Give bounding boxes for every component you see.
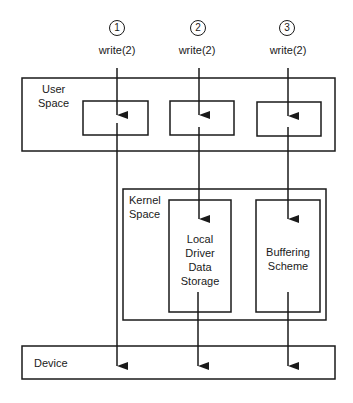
kernel-space-label-line2: Space	[129, 207, 161, 221]
local-driver-line4: Storage	[169, 274, 231, 288]
device-label: Device	[34, 356, 68, 370]
buffering-scheme-label: Buffering Scheme	[256, 245, 320, 273]
step-number-2: 2	[190, 20, 206, 36]
local-driver-line2: Driver	[169, 246, 231, 260]
diagram-canvas	[0, 0, 353, 403]
buffering-line2: Scheme	[256, 259, 320, 273]
user-buffer-box-2	[170, 101, 234, 135]
write-call-2: write(2)	[172, 43, 222, 57]
kernel-space-label-line1: Kernel	[129, 193, 161, 207]
step-number-3: 3	[279, 20, 295, 36]
local-driver-line3: Data	[169, 260, 231, 274]
user-buffer-box-1	[83, 101, 148, 135]
user-buffer-box-3	[257, 102, 321, 136]
buffering-line1: Buffering	[256, 245, 320, 259]
user-space-label-line1: User	[38, 82, 69, 96]
step-number-1: 1	[109, 20, 125, 36]
write-call-1: write(2)	[92, 43, 142, 57]
local-driver-line1: Local	[169, 232, 231, 246]
kernel-space-label: Kernel Space	[129, 193, 161, 221]
user-space-label: User Space	[38, 82, 69, 110]
user-space-label-line2: Space	[38, 96, 69, 110]
write-call-3: write(2)	[260, 43, 316, 57]
local-driver-label: Local Driver Data Storage	[169, 232, 231, 288]
